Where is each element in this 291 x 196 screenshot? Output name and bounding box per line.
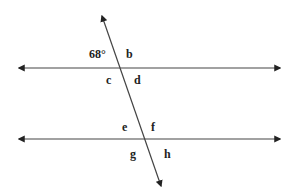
angle-h-label: h bbox=[164, 147, 171, 161]
angle-68-label: 68° bbox=[89, 47, 106, 61]
parallel-lines-diagram: 68° b c d e f g h bbox=[0, 0, 291, 196]
angle-c-label: c bbox=[106, 73, 112, 87]
angle-g-label: g bbox=[130, 147, 136, 161]
angle-b-label: b bbox=[126, 47, 133, 61]
angle-f-label: f bbox=[151, 120, 156, 134]
angle-d-label: d bbox=[134, 73, 141, 87]
angle-e-label: e bbox=[122, 120, 128, 134]
